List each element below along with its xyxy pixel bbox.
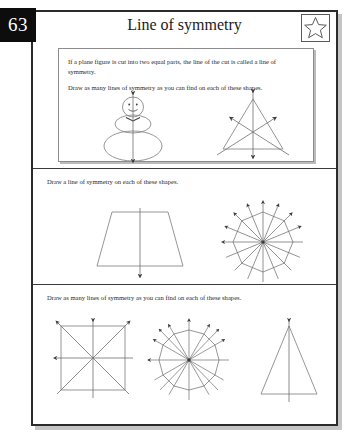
figure-trapezoid[interactable] [88,198,192,280]
page-number-tab: 63 [0,8,36,42]
figure-equilateral-triangle[interactable] [209,87,297,163]
octagon-center-point [261,240,264,243]
worksheet-header: Line of symmetry [33,12,336,46]
snowman-eye-right [136,104,138,106]
figure-regular-octagon[interactable] [215,194,311,286]
figure-isosceles-triangle[interactable] [245,314,333,406]
definition-text: If a plane figure is cut into two equal … [59,49,313,77]
star-icon [302,15,329,41]
instruction-section-three: Draw as many lines of symmetry as you ca… [47,294,241,301]
snowman-eye-left [128,104,130,106]
page-number-text: 63 [8,14,28,36]
section-divider-1 [33,168,336,169]
worksheet-page: Line of symmetry If a plane figure is cu… [31,10,338,426]
instruction-section-two: Draw a line of symmetry on each of these… [47,178,178,185]
figure-regular-dodecagon[interactable] [141,312,237,408]
dodecagon-center-point [187,358,190,361]
page-title: Line of symmetry [33,16,336,34]
figure-square[interactable] [47,312,139,404]
figure-snowman[interactable] [89,91,177,163]
section-divider-2 [33,284,336,285]
intro-panel: If a plane figure is cut into two equal … [58,48,314,162]
star-icon-box [301,14,330,42]
